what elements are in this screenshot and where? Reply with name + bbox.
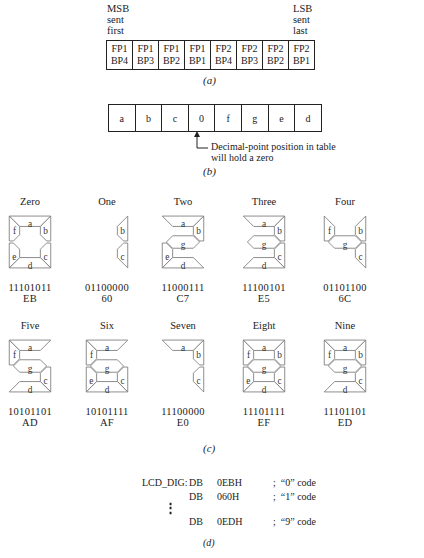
digit-name: Seven: [148, 320, 218, 334]
cell-fp: FP2: [289, 43, 314, 55]
asm-op-1: DB: [189, 491, 203, 502]
svg-text:e: e: [89, 376, 93, 386]
svg-text:e: e: [165, 252, 169, 262]
asm-comment-1: ; “1” code: [273, 491, 316, 502]
digit-one: One bc 01100000 60: [72, 196, 142, 304]
bit-cell: FP1BP2: [159, 41, 185, 69]
digit-name: Eight: [229, 320, 299, 334]
digit-hex: E5: [229, 293, 299, 304]
svg-text:g: g: [262, 364, 267, 374]
digit-hex: AF: [72, 417, 142, 428]
digit-name: One: [72, 196, 142, 210]
asm-value-2: 0EDH: [217, 516, 243, 527]
svg-text:g: g: [28, 364, 33, 374]
bit-cell: FP2BP4: [211, 41, 237, 69]
digit-name: Four: [310, 196, 380, 210]
segment-cell: f: [215, 105, 242, 131]
bit-cell: FP2BP1: [289, 41, 314, 69]
digit-hex: AD: [0, 417, 65, 428]
segment-cell: a: [109, 105, 136, 131]
bit-order-row: FP1BP4 FP1BP3 FP1BP2 FP1BP1 FP2BP4 FP2BP…: [106, 40, 315, 70]
digit-nine: Nine abcdfg 11101101 ED: [310, 320, 380, 428]
segment-cell: 0: [189, 105, 216, 131]
digit-binary: 11101101: [310, 406, 380, 417]
digit-name: Nine: [310, 320, 380, 334]
svg-text:b: b: [196, 226, 201, 236]
svg-text:c: c: [277, 376, 281, 386]
asm-comment-0: ; “0” code: [273, 477, 316, 488]
digit-six: Six afgecd 10101111 AF: [72, 320, 142, 428]
lsb-last: last: [293, 25, 312, 36]
svg-text:g: g: [262, 240, 267, 250]
seven-segment-icon: fgbc: [322, 214, 368, 270]
svg-text:c: c: [358, 376, 362, 386]
digit-binary: 10101111: [72, 406, 142, 417]
bit-cell: FP1BP1: [185, 41, 211, 69]
svg-text:e: e: [246, 376, 250, 386]
digit-binary: 01100000: [72, 282, 142, 293]
cell-fp: FP1: [107, 43, 132, 55]
asm-comment-2: ; “9” code: [273, 516, 316, 527]
svg-text:b: b: [120, 226, 125, 236]
cell-bp: BP1: [185, 55, 210, 67]
svg-text:g: g: [343, 364, 348, 374]
digit-seven: Seven abc 11100000 E0: [148, 320, 218, 428]
seven-segment-icon: abgcd: [241, 214, 287, 270]
digit-binary: 11100000: [148, 406, 218, 417]
seven-segment-icon: afgcd: [7, 338, 53, 394]
svg-text:c: c: [43, 376, 47, 386]
lsb-text: LSB: [293, 3, 312, 14]
svg-text:d: d: [105, 385, 110, 394]
digit-name: Two: [148, 196, 218, 210]
svg-text:e: e: [12, 252, 16, 262]
digit-hex: EF: [229, 417, 299, 428]
svg-text:c: c: [43, 252, 47, 262]
seven-segment-icon: abcdef: [7, 214, 53, 270]
seven-segment-icon: bc: [84, 214, 130, 270]
digit-binary: 01101100: [310, 282, 380, 293]
segment-cell: g: [242, 105, 269, 131]
svg-text:b: b: [196, 350, 201, 360]
cell-fp: FP2: [263, 43, 288, 55]
digit-hex: E0: [148, 417, 218, 428]
svg-text:d: d: [28, 385, 33, 394]
cell-bp: BP3: [237, 55, 262, 67]
cell-bp: BP1: [289, 55, 314, 67]
asm-label: LCD_DIG:: [142, 477, 188, 488]
msb-first: first: [107, 25, 129, 36]
svg-text:d: d: [262, 261, 267, 270]
bit-cell: FP1BP4: [107, 41, 133, 69]
msb-sent: sent: [107, 14, 129, 25]
digit-hex: EB: [0, 293, 65, 304]
caption-c: (c): [203, 442, 215, 454]
bit-cell: FP2BP2: [263, 41, 289, 69]
digit-binary: 10101101: [0, 406, 65, 417]
cell-bp: BP3: [133, 55, 158, 67]
cell-fp: FP1: [133, 43, 158, 55]
svg-text:b: b: [43, 226, 48, 236]
digit-four: Four fgbc 01101100 6C: [310, 196, 380, 304]
digit-binary: 11101111: [229, 406, 299, 417]
bit-cell: FP1BP3: [133, 41, 159, 69]
msb-label: MSB sent first: [107, 3, 129, 36]
digit-two: Two abged 11000111 C7: [148, 196, 218, 304]
segment-cell: c: [162, 105, 189, 131]
lsb-sent: sent: [293, 14, 312, 25]
cell-bp: BP4: [107, 55, 132, 67]
caption-d: (d): [203, 537, 215, 548]
digit-zero: Zero abcdef 11101011 EB: [0, 196, 65, 304]
seven-segment-icon: abcdefg: [241, 338, 287, 394]
digit-five: Five afgcd 10101101 AD: [0, 320, 65, 428]
digit-eight: Eight abcdefg 11101111 EF: [229, 320, 299, 428]
svg-text:g: g: [181, 240, 186, 250]
svg-text:c: c: [358, 252, 362, 262]
digit-hex: C7: [148, 293, 218, 304]
svg-text:c: c: [277, 252, 281, 262]
digit-binary: 11000111: [148, 282, 218, 293]
digit-hex: 60: [72, 293, 142, 304]
asm-value-0: 0EBH: [217, 477, 242, 488]
svg-text:d: d: [28, 261, 33, 270]
svg-text:c: c: [120, 252, 124, 262]
lsb-label: LSB sent last: [293, 3, 312, 36]
msb-text: MSB: [107, 3, 129, 14]
